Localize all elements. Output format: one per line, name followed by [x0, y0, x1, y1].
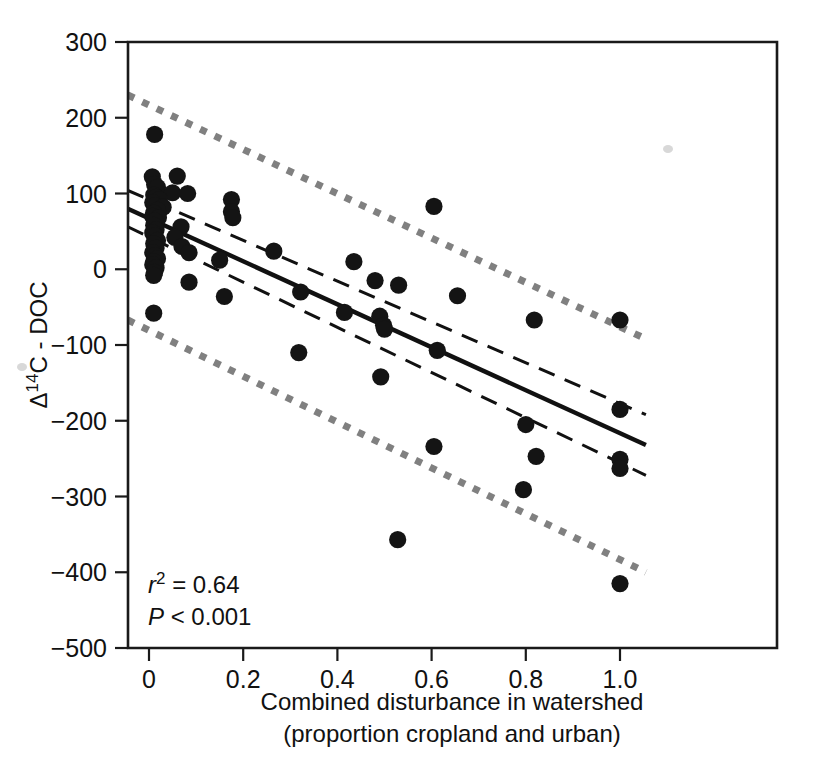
data-point: [292, 283, 309, 300]
data-point: [216, 288, 233, 305]
data-point: [449, 287, 466, 304]
data-point: [390, 277, 407, 294]
data-points-group: [144, 126, 629, 592]
data-point: [366, 272, 383, 289]
data-point: [169, 167, 186, 184]
confidence-band-lower: [128, 227, 646, 475]
data-point: [372, 368, 389, 385]
data-point: [425, 198, 442, 215]
data-point: [224, 209, 241, 226]
data-point: [429, 342, 446, 359]
data-point: [611, 460, 628, 477]
data-point: [145, 267, 162, 284]
svg-text:Δ14C - DOC: Δ14C - DOC: [23, 282, 52, 409]
plot-frame: [128, 42, 777, 648]
p-value-annotation: P < 0.001: [148, 603, 251, 630]
p-value-value: < 0.001: [164, 603, 251, 630]
y-tick-label: −200: [51, 407, 107, 435]
data-point: [376, 320, 393, 337]
x-axis-ticks: [149, 648, 620, 661]
scatter-plot: 3002001000−100−200−300−400−500 00.20.40.…: [0, 0, 814, 764]
y-tick-label: −400: [51, 558, 107, 586]
scan-artifact: [663, 145, 673, 153]
y-tick-label: 100: [65, 180, 107, 208]
data-point: [265, 242, 282, 259]
x-axis-title-line2: (proportion cropland and urban): [283, 720, 621, 747]
data-point: [345, 253, 362, 270]
p-value-symbol: P: [148, 603, 164, 630]
y-axis-ticks: [115, 42, 128, 648]
y-tick-label: 300: [65, 28, 107, 56]
data-point: [179, 185, 196, 202]
r-squared-exponent: 2: [156, 569, 165, 588]
data-point: [611, 401, 628, 418]
r-squared-annotation: r2 = 0.64: [148, 569, 240, 598]
data-point: [180, 274, 197, 291]
y-tick-label: −500: [51, 634, 107, 662]
data-point: [290, 344, 307, 361]
prediction-band-lower: [128, 320, 646, 572]
data-point: [180, 244, 197, 261]
x-tick-label: 0: [142, 665, 156, 693]
data-point: [528, 448, 545, 465]
y-axis-title-superscript: 14: [23, 374, 42, 393]
data-point: [211, 252, 228, 269]
x-tick-label: 0.2: [226, 665, 261, 693]
y-tick-label: −100: [51, 331, 107, 359]
figure-container: 3002001000−100−200−300−400−500 00.20.40.…: [0, 0, 814, 764]
y-tick-label: 200: [65, 104, 107, 132]
data-point: [389, 531, 406, 548]
y-axis-title-rest: C - DOC: [25, 282, 52, 374]
y-axis-title-delta: Δ: [25, 392, 52, 408]
y-axis-title: Δ14C - DOC: [23, 282, 52, 409]
y-tick-label: 0: [93, 255, 107, 283]
data-point: [425, 438, 442, 455]
data-point: [517, 416, 534, 433]
data-point: [336, 304, 353, 321]
data-point: [611, 575, 628, 592]
y-tick-label: −300: [51, 483, 107, 511]
data-point: [146, 126, 163, 143]
data-point: [145, 305, 162, 322]
data-point: [515, 481, 532, 498]
r-squared-value: = 0.64: [165, 571, 239, 598]
y-axis-tick-labels: 3002001000−100−200−300−400−500: [51, 28, 107, 662]
data-point: [526, 311, 543, 328]
x-axis-title-line1: Combined disturbance in watershed: [261, 688, 644, 715]
data-point: [611, 311, 628, 328]
